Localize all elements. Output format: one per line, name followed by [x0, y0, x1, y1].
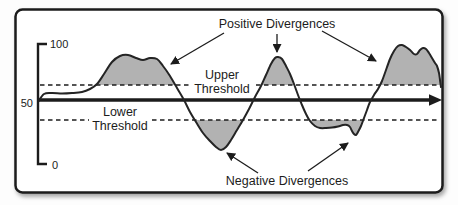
- negative-divergences-label: Negative Divergences: [226, 174, 348, 188]
- lower-threshold-label-line2: Threshold: [92, 119, 148, 133]
- positive-divergences-label: Positive Divergences: [219, 17, 336, 31]
- upper-threshold-label-line2: Threshold: [194, 82, 250, 96]
- y-tick-label-0: 0: [52, 159, 58, 171]
- y-tick-label-100: 100: [50, 38, 68, 50]
- lower-threshold-label-line1: Lower: [103, 105, 137, 119]
- oscillator-divergence-diagram: 100 50 0 Upper Threshold Lower Threshold…: [0, 0, 458, 205]
- y-tick-label-50: 50: [21, 97, 33, 109]
- upper-threshold-label-line1: Upper: [205, 68, 239, 82]
- diagram-canvas: 100 50 0 Upper Threshold Lower Threshold…: [0, 0, 458, 205]
